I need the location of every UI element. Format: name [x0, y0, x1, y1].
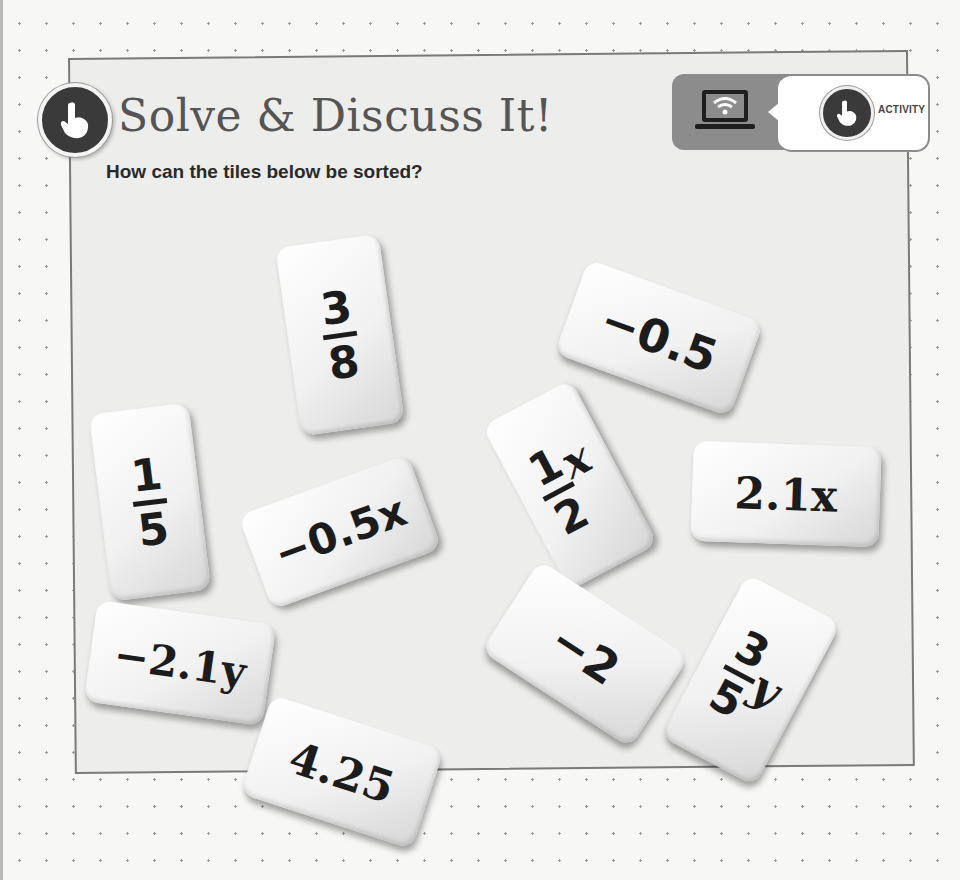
fraction: 3 8 [316, 284, 363, 387]
page-title: Solve & Discuss It! [118, 90, 553, 141]
activity-label: ACTIVITY [878, 104, 925, 115]
laptop-wifi-icon [694, 88, 756, 140]
fraction: 1 5 [127, 451, 173, 553]
pointing-hand-icon [38, 83, 112, 157]
badge-pointer [768, 102, 780, 122]
pointing-hand-icon [820, 86, 874, 140]
tile-two-point-one-x[interactable]: 2.1x [690, 441, 881, 548]
page-edge [0, 0, 3, 880]
question-prompt: How can the tiles below be sorted? [106, 161, 423, 183]
activity-badge[interactable]: ACTIVITY [672, 74, 930, 150]
